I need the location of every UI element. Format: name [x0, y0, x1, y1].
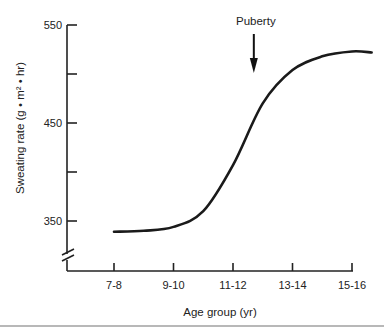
x-tick-label: 9-10 [162, 279, 184, 291]
y-tick-label: 350 [44, 215, 62, 227]
x-tick-label: 11-12 [219, 279, 246, 291]
axis-break-mark [62, 249, 74, 255]
annotations: Puberty [236, 15, 276, 73]
chart: 350450550 7-89-1011-1213-1415-16 Puberty… [0, 0, 384, 331]
x-tick-label: 15-16 [338, 279, 366, 291]
y-tick-label: 550 [44, 19, 62, 31]
y-axis-title: Sweating rate (g • m² • hr) [14, 62, 26, 194]
arrow-down-icon [250, 58, 258, 73]
y-tick-label: 450 [44, 117, 62, 129]
x-tick-label: 13-14 [278, 279, 306, 291]
axis-break-mark [62, 255, 74, 261]
series-line [114, 51, 372, 231]
annotation-label: Puberty [236, 15, 276, 27]
x-ticks: 7-89-1011-1213-1415-16 [106, 263, 366, 291]
x-tick-label: 7-8 [106, 279, 122, 291]
x-axis-title: Age group (yr) [183, 306, 257, 318]
divider-line [0, 325, 384, 327]
series [114, 51, 372, 231]
y-ticks: 350450550 [44, 19, 77, 227]
